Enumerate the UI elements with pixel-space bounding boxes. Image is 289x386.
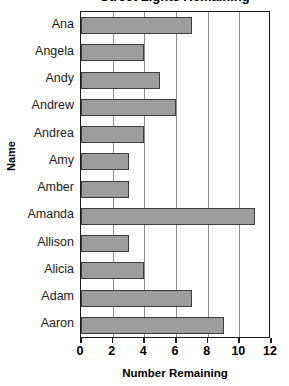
tick-mark: [112, 338, 114, 343]
category-label: Andrea: [0, 126, 74, 140]
tick-mark: [175, 338, 177, 343]
category-label: Alicia: [0, 262, 74, 276]
bar-row: [81, 121, 269, 148]
bar-row: [81, 257, 269, 284]
chart-page: Street Lights Remaining Name AnaAngelaAn…: [0, 0, 289, 386]
category-label: Adam: [0, 289, 74, 303]
category-label: Andy: [0, 71, 74, 85]
bar-row: [81, 312, 269, 339]
bar[interactable]: [81, 235, 129, 252]
category-label: Amber: [0, 180, 74, 194]
category-label: Aaron: [0, 316, 74, 330]
x-tick-label: 12: [255, 344, 285, 358]
bar[interactable]: [81, 17, 192, 34]
tick-mark: [80, 338, 82, 343]
bar-row: [81, 176, 269, 203]
bar[interactable]: [81, 44, 144, 61]
tick-mark: [270, 338, 272, 343]
bar-row: [81, 148, 269, 175]
x-tick-label: 6: [160, 344, 190, 358]
bar-row: [81, 39, 269, 66]
bar[interactable]: [81, 153, 129, 170]
x-axis-title: Number Remaining: [80, 367, 270, 379]
category-label: Allison: [0, 235, 74, 249]
bar[interactable]: [81, 126, 144, 143]
x-tick-label: 10: [223, 344, 253, 358]
x-tick-label: 4: [128, 344, 158, 358]
bar-row: [81, 285, 269, 312]
bar[interactable]: [81, 208, 255, 225]
category-label: Ana: [0, 17, 74, 31]
bar[interactable]: [81, 262, 144, 279]
bar[interactable]: [81, 317, 224, 334]
category-label: Andrew: [0, 98, 74, 112]
plot-area: [80, 11, 270, 338]
bar-row: [81, 94, 269, 121]
tick-mark: [207, 338, 209, 343]
bar-row: [81, 203, 269, 230]
bar-row: [81, 230, 269, 257]
tick-mark: [238, 338, 240, 343]
bar-row: [81, 12, 269, 39]
category-label: Amanda: [0, 207, 74, 221]
bar[interactable]: [81, 290, 192, 307]
tick-mark: [143, 338, 145, 343]
chart-title: Street Lights Remaining: [80, 0, 270, 4]
bar[interactable]: [81, 72, 160, 89]
category-label: Amy: [0, 153, 74, 167]
bar[interactable]: [81, 99, 176, 116]
bar[interactable]: [81, 181, 129, 198]
x-tick-label: 0: [65, 344, 95, 358]
x-tick-label: 2: [97, 344, 127, 358]
x-tick-label: 8: [192, 344, 222, 358]
category-label: Angela: [0, 44, 74, 58]
bar-row: [81, 67, 269, 94]
